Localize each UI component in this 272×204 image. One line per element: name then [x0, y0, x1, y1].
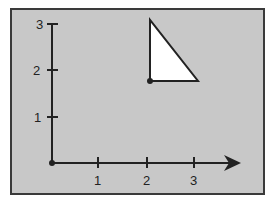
- x-tick-label-1: 1: [94, 173, 101, 188]
- origin-dot: [49, 160, 55, 166]
- x-tick-label-3: 3: [190, 173, 197, 188]
- triangle-vertex-dot: [147, 78, 153, 84]
- x-tick-label-2: 2: [143, 173, 150, 188]
- y-tick-label-1: 1: [34, 110, 41, 125]
- y-tick-label-2: 2: [33, 63, 40, 78]
- right-triangle: [150, 20, 198, 81]
- coordinate-plane: 3 2 1 1 2 3: [0, 0, 272, 204]
- y-tick-label-3: 3: [36, 17, 43, 32]
